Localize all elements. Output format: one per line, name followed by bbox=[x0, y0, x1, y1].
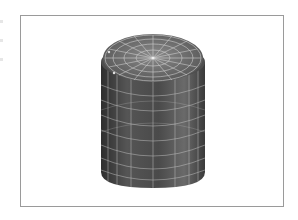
cylinder-top bbox=[103, 34, 203, 82]
cylinder-render bbox=[0, 0, 298, 220]
